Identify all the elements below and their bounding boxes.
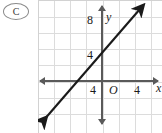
y-axis-label: y <box>106 11 111 23</box>
plotted-line <box>38 0 162 133</box>
origin-label: O <box>109 84 118 96</box>
x-tick-label-negative-4: 4 <box>90 84 96 96</box>
choice-letter-badge: C <box>3 3 29 20</box>
choice-letter-text: C <box>13 7 20 17</box>
y-tick-label-4: 4 <box>87 49 93 61</box>
x-tick-label-positive-4: 4 <box>134 84 140 96</box>
x-axis-label: x <box>156 82 161 94</box>
coordinate-graph: 4 4 O x 8 4 y <box>38 0 162 133</box>
y-tick-label-8: 8 <box>87 14 93 26</box>
